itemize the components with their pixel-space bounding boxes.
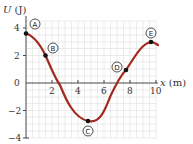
point-a-marker — [24, 31, 29, 36]
x-axis-label: x (m) — [160, 77, 186, 88]
point-b-marker — [43, 53, 48, 58]
svg-text:B: B — [51, 45, 56, 53]
y-tick-neg2: −2 — [8, 106, 21, 116]
x-tick-6: 6 — [101, 86, 107, 96]
svg-text:A: A — [33, 21, 38, 29]
y-tick-2: 2 — [14, 51, 20, 61]
label-c: C — [83, 126, 93, 136]
point-labels: A B C D E — [30, 19, 156, 136]
point-d-marker — [124, 68, 129, 73]
potential-energy-chart: U (J) x (m) 4 2 0 −2 −4 2 4 6 8 10 A B C — [0, 0, 193, 144]
point-c-marker — [86, 119, 91, 124]
label-a: A — [30, 19, 40, 29]
x-tick-8: 8 — [127, 86, 133, 96]
point-e-marker — [149, 40, 154, 45]
label-e: E — [146, 28, 156, 38]
y-tick-4: 4 — [14, 23, 20, 33]
y-tick-neg4: −4 — [8, 133, 22, 143]
svg-text:E: E — [149, 30, 153, 38]
x-tick-4: 4 — [75, 86, 81, 96]
axes — [23, 16, 158, 138]
data-points — [24, 31, 154, 123]
x-tick-2: 2 — [49, 86, 55, 96]
svg-text:D: D — [114, 64, 119, 72]
label-b: B — [48, 43, 58, 53]
svg-text:C: C — [86, 128, 91, 136]
label-d: D — [112, 62, 122, 72]
y-tick-0: 0 — [14, 78, 20, 88]
y-axis-label: U (J) — [3, 4, 27, 15]
x-tick-10: 10 — [150, 86, 162, 96]
